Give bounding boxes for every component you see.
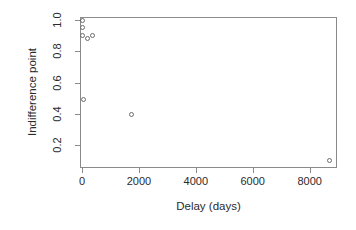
y-axis-tick-label: 0.8 — [51, 38, 63, 64]
x-axis-tick-label: 0 — [52, 175, 112, 187]
x-axis-tick — [82, 168, 83, 173]
y-axis-tick — [75, 20, 80, 21]
y-axis-tick-label: 0.6 — [51, 70, 63, 96]
x-axis-tick-label: 6000 — [223, 175, 283, 187]
scatter-plot-figure: 020004000600080000.20.40.60.81.0 Delay (… — [0, 0, 356, 230]
y-axis-tick-label: 0.4 — [51, 101, 63, 127]
y-axis-tick-label: 0.2 — [51, 132, 63, 158]
x-axis-tick — [310, 168, 311, 173]
x-axis-tick-label: 2000 — [109, 175, 169, 187]
y-axis-title: Indifference point — [25, 48, 39, 136]
x-axis-tick — [139, 168, 140, 173]
x-axis-title: Delay (days) — [80, 199, 337, 213]
y-axis-tick — [75, 114, 80, 115]
y-axis-tick — [75, 145, 80, 146]
plot-frame — [80, 17, 337, 168]
x-axis-tick — [253, 168, 254, 173]
x-axis-tick-label: 4000 — [166, 175, 226, 187]
y-axis-tick-label: 1.0 — [51, 7, 63, 33]
y-axis-tick — [75, 51, 80, 52]
x-axis-tick-label: 8000 — [280, 175, 340, 187]
y-axis-tick — [75, 83, 80, 84]
x-axis-tick — [196, 168, 197, 173]
